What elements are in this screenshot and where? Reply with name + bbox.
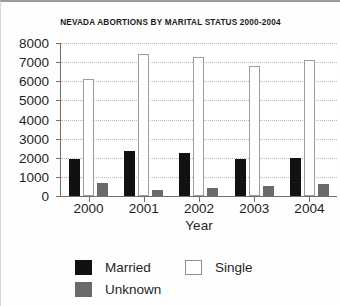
- y-axis-labels: 010002000300040005000600070008000: [1, 43, 57, 196]
- y-axis-tick-label: 4000: [19, 112, 49, 127]
- x-axis-tick-label: 2000: [74, 201, 104, 216]
- bar-unknown-2001: [152, 190, 163, 196]
- legend-item-single: Single: [185, 260, 253, 275]
- y-axis-tick-label: 2000: [19, 150, 49, 165]
- legend-item-married: Married: [75, 260, 185, 275]
- legend-row: Married Single: [75, 256, 315, 278]
- bar-group: [116, 43, 171, 196]
- bar-married-2002: [179, 153, 190, 196]
- bar-unknown-2004: [318, 184, 329, 196]
- chart-legend: Married Single Unknown: [75, 256, 315, 300]
- legend-swatch-unknown-icon: [75, 282, 92, 297]
- legend-row: Unknown: [75, 278, 315, 300]
- y-axis-tick-label: 3000: [19, 131, 49, 146]
- x-axis-tick-label: 2004: [294, 201, 324, 216]
- chart-frame: NEVADA ABORTIONS BY MARITAL STATUS 2000-…: [0, 0, 340, 306]
- x-axis-labels: 20002001200220032004: [61, 201, 337, 219]
- legend-label-unknown: Unknown: [105, 282, 161, 297]
- legend-swatch-single-icon: [185, 260, 202, 275]
- y-axis-tick: [56, 196, 61, 197]
- chart-title: NEVADA ABORTIONS BY MARITAL STATUS 2000-…: [1, 18, 340, 27]
- x-axis-title: Year: [61, 218, 337, 233]
- legend-label-single: Single: [215, 260, 253, 275]
- bar-unknown-2000: [97, 183, 108, 196]
- bar-group: [282, 43, 337, 196]
- bar-group: [61, 43, 116, 196]
- bar-unknown-2003: [263, 186, 274, 196]
- bar-single-2000: [83, 79, 94, 196]
- y-axis-tick-label: 5000: [19, 93, 49, 108]
- bar-single-2001: [138, 54, 149, 196]
- bar-married-2004: [290, 158, 301, 196]
- plot-area: [61, 43, 337, 196]
- x-axis-tick-label: 2001: [129, 201, 159, 216]
- bar-married-2000: [69, 159, 80, 196]
- bar-single-2003: [249, 66, 260, 196]
- bar-unknown-2002: [207, 188, 218, 196]
- legend-label-married: Married: [105, 260, 151, 275]
- bar-single-2004: [304, 60, 315, 196]
- legend-item-unknown: Unknown: [75, 282, 185, 297]
- bar-group: [227, 43, 282, 196]
- legend-swatch-married-icon: [75, 260, 92, 275]
- x-axis-tick-label: 2002: [184, 201, 214, 216]
- y-axis-tick-label: 0: [41, 189, 49, 204]
- x-axis-tick-label: 2003: [239, 201, 269, 216]
- y-axis-tick-label: 6000: [19, 74, 49, 89]
- bar-single-2002: [193, 57, 204, 196]
- bar-married-2001: [124, 151, 135, 196]
- bar-group: [171, 43, 226, 196]
- y-axis-tick-label: 8000: [19, 36, 49, 51]
- bar-married-2003: [235, 159, 246, 196]
- y-axis-tick-label: 7000: [19, 55, 49, 70]
- y-axis-tick-label: 1000: [19, 169, 49, 184]
